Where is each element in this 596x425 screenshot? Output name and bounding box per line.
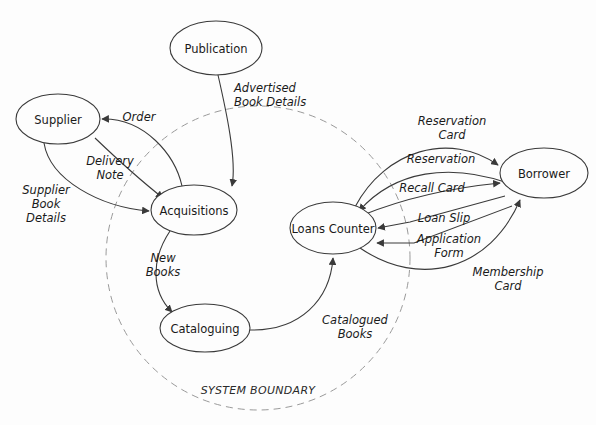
node-supplier-label: Supplier [34, 113, 82, 127]
node-borrower-label: Borrower [518, 167, 570, 181]
node-publication[interactable]: Publication [170, 21, 262, 75]
node-cataloguing[interactable]: Cataloguing [160, 304, 250, 352]
flow-label-reservation: Reservation [407, 152, 476, 166]
node-supplier[interactable]: Supplier [16, 94, 100, 144]
flow-advertised-book-details [218, 75, 233, 186]
diagram-canvas: SYSTEM BOUNDARY [0, 0, 596, 425]
diagram-nodes: Publication Supplier Acquisitions Catalo… [16, 21, 588, 352]
flow-label-application-form: ApplicationForm [416, 232, 481, 260]
flow-label-advertised-book-details: AdvertisedBook Details [233, 81, 306, 109]
flow-label-recall-card: Recall Card [399, 181, 465, 195]
flow-label-order: Order [123, 110, 157, 124]
node-loans-counter-label: Loans Counter [291, 222, 374, 236]
data-flow-diagram: SYSTEM BOUNDARY [0, 0, 596, 425]
flow-label-catalogued-books: CataloguedBooks [322, 313, 389, 341]
node-cataloguing-label: Cataloguing [170, 322, 239, 336]
node-acquisitions[interactable]: Acquisitions [151, 185, 237, 235]
node-borrower[interactable]: Borrower [500, 148, 588, 198]
flow-label-membership-card: MembershipCard [472, 265, 543, 293]
flow-label-reservation-card: ReservationCard [418, 114, 487, 142]
flow-label-loan-slip: Loan Slip [418, 211, 470, 225]
node-loans-counter[interactable]: Loans Counter [290, 202, 376, 254]
system-boundary-label: SYSTEM BOUNDARY [201, 384, 317, 397]
node-acquisitions-label: Acquisitions [160, 204, 229, 218]
flow-label-supplier-book-details: SupplierBookDetails [22, 183, 71, 225]
flow-catalogued-books [250, 258, 333, 330]
flow-label-new-books: NewBooks [146, 251, 181, 279]
node-publication-label: Publication [184, 42, 247, 56]
